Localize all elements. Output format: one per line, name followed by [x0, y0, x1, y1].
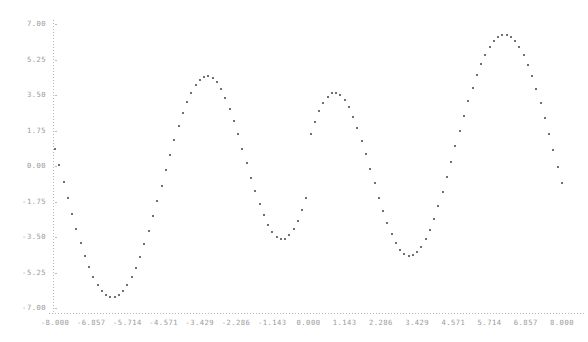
axis-tick-dot	[53, 191, 54, 192]
data-point	[267, 224, 269, 226]
axis-tick-dot	[53, 176, 54, 177]
data-point	[131, 276, 133, 278]
axis-tick-dot	[451, 313, 452, 314]
axis-tick-dot	[418, 313, 419, 314]
axis-tick-dot	[181, 313, 182, 314]
data-point	[114, 296, 116, 298]
axis-tick-dot	[304, 313, 305, 314]
axis-tick-dot	[53, 53, 54, 54]
data-point	[156, 200, 158, 202]
data-point	[139, 256, 141, 258]
data-point	[489, 46, 491, 48]
axis-tick-dot	[88, 313, 89, 314]
axis-tick-dot	[298, 313, 299, 314]
axis-tick-dot	[53, 137, 54, 138]
y-tick-label: 3.50	[0, 91, 46, 99]
data-point	[276, 236, 278, 238]
data-point	[442, 191, 444, 193]
y-tick-label: 0.00	[0, 162, 46, 170]
axis-tick-dot	[49, 313, 50, 314]
data-point	[199, 79, 201, 81]
axis-tick-dot	[502, 313, 503, 314]
axis-tick-dot	[556, 313, 557, 314]
axis-tick-dot	[53, 68, 54, 69]
axis-tick-dot	[505, 313, 506, 314]
axis-tick-dot	[328, 313, 329, 314]
y-tick-label: 7.00	[0, 20, 46, 28]
axis-tick-dot	[256, 313, 257, 314]
axis-tick-dot	[271, 313, 272, 314]
axis-tick-dot	[61, 313, 62, 314]
axis-tick-dot	[205, 313, 206, 314]
axis-tick-dot	[313, 313, 314, 314]
axis-tick-dot	[100, 313, 101, 314]
axis-tick-dot	[544, 313, 545, 314]
data-point	[122, 290, 124, 292]
data-point	[391, 233, 393, 235]
axis-tick-dot	[53, 263, 54, 264]
axis-tick-dot	[53, 38, 54, 39]
axis-tick-dot	[568, 313, 569, 314]
axis-tick-dot	[53, 32, 54, 33]
y-tick-mark	[55, 95, 57, 96]
data-point	[361, 140, 363, 142]
axis-tick-dot	[53, 293, 54, 294]
y-tick-label: -5.25	[0, 269, 46, 277]
axis-tick-dot	[53, 203, 54, 204]
axis-tick-dot	[53, 239, 54, 240]
data-point	[544, 117, 546, 119]
axis-tick-dot	[53, 92, 54, 93]
axis-tick-dot	[250, 313, 251, 314]
axis-tick-dot	[53, 302, 54, 303]
y-tick-mark	[55, 60, 57, 61]
axis-tick-dot	[53, 299, 54, 300]
axis-tick-dot	[53, 131, 54, 132]
data-point	[165, 169, 167, 171]
axis-tick-dot	[466, 313, 467, 314]
data-point	[344, 99, 346, 101]
data-point	[339, 94, 341, 96]
data-point	[463, 115, 465, 117]
axis-tick-dot	[376, 313, 377, 314]
scatter-plot-figure: 7.005.253.501.750.00-1.75-3.50-5.25-7.00…	[0, 0, 588, 342]
data-point	[416, 251, 418, 253]
axis-tick-dot	[53, 296, 54, 297]
data-point	[58, 164, 60, 166]
data-point	[169, 154, 171, 156]
axis-tick-dot	[53, 257, 54, 258]
axis-tick-dot	[412, 313, 413, 314]
data-point	[105, 294, 107, 296]
axis-tick-dot	[463, 313, 464, 314]
axis-tick-dot	[364, 313, 365, 314]
axis-tick-dot	[430, 313, 431, 314]
axis-tick-dot	[133, 313, 134, 314]
axis-tick-dot	[53, 71, 54, 72]
axis-tick-dot	[517, 313, 518, 314]
data-point	[101, 290, 103, 292]
axis-tick-dot	[409, 313, 410, 314]
axis-tick-dot	[397, 313, 398, 314]
axis-tick-dot	[53, 143, 54, 144]
axis-tick-dot	[53, 251, 54, 252]
data-point	[518, 46, 520, 48]
axis-tick-dot	[511, 313, 512, 314]
data-point	[109, 296, 111, 298]
axis-tick-dot	[286, 313, 287, 314]
axis-tick-dot	[53, 107, 54, 108]
axis-tick-dot	[53, 269, 54, 270]
axis-tick-dot	[295, 313, 296, 314]
axis-tick-dot	[190, 313, 191, 314]
axis-tick-dot	[268, 313, 269, 314]
axis-tick-dot	[316, 313, 317, 314]
axis-tick-dot	[53, 89, 54, 90]
axis-tick-dot	[562, 313, 563, 314]
axis-tick-dot	[241, 313, 242, 314]
data-point	[335, 92, 337, 94]
axis-tick-dot	[53, 98, 54, 99]
axis-tick-dot	[53, 233, 54, 234]
axis-tick-dot	[85, 313, 86, 314]
data-point	[322, 102, 324, 104]
axis-tick-dot	[283, 313, 284, 314]
axis-tick-dot	[53, 167, 54, 168]
axis-tick-dot	[172, 313, 173, 314]
